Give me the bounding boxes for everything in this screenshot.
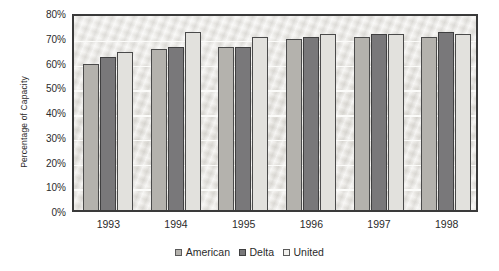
bar-group: [354, 16, 404, 210]
legend-label: United: [294, 246, 324, 258]
y-axis-title: Percentage of Capacity: [19, 42, 29, 202]
legend-swatch-icon: [175, 249, 182, 256]
bar[interactable]: [83, 64, 99, 210]
y-axis-tick-label: 50%: [30, 83, 66, 94]
chart-legend: AmericanDeltaUnited: [0, 246, 499, 258]
bar-chart: Percentage of Capacity 80%70%60%50%40%30…: [0, 0, 499, 271]
y-axis-tick-label: 10%: [30, 182, 66, 193]
bar[interactable]: [252, 37, 268, 210]
y-axis-tick-label: 70%: [30, 33, 66, 44]
legend-entry[interactable]: United: [283, 246, 324, 258]
bars-layer: [74, 16, 476, 210]
plot-area: [72, 14, 478, 212]
bar[interactable]: [354, 37, 370, 210]
bar[interactable]: [168, 47, 184, 210]
bar[interactable]: [218, 47, 234, 210]
y-axis-tick-labels: 80%70%60%50%40%30%20%10%0%: [30, 14, 66, 218]
bar[interactable]: [151, 49, 167, 210]
bar[interactable]: [371, 34, 387, 210]
bar[interactable]: [286, 39, 302, 210]
legend-entry[interactable]: American: [175, 246, 230, 258]
bar-group: [218, 16, 268, 210]
bar[interactable]: [185, 32, 201, 210]
bar[interactable]: [117, 52, 133, 210]
x-axis-tick-label: 1994: [164, 218, 187, 230]
bar-group: [286, 16, 336, 210]
bar-group: [151, 16, 201, 210]
bar[interactable]: [438, 32, 454, 210]
bar[interactable]: [235, 47, 251, 210]
x-axis-tick-label: 1998: [435, 218, 458, 230]
x-axis-tick-label: 1993: [97, 218, 120, 230]
bar[interactable]: [455, 34, 471, 210]
legend-label: Delta: [249, 246, 274, 258]
legend-entry[interactable]: Delta: [239, 246, 274, 258]
bar-group: [421, 16, 471, 210]
y-axis-tick-label: 30%: [30, 132, 66, 143]
x-axis-tick-label: 1996: [300, 218, 323, 230]
legend-swatch-icon: [239, 249, 246, 256]
x-axis-tick-labels: 199319941995199619971998: [72, 218, 478, 234]
bar[interactable]: [421, 37, 437, 210]
x-axis-tick-label: 1997: [367, 218, 390, 230]
legend-swatch-icon: [283, 249, 290, 256]
legend-label: American: [186, 246, 230, 258]
bar-group: [83, 16, 133, 210]
y-axis-tick-label: 40%: [30, 108, 66, 119]
x-axis-tick-label: 1995: [232, 218, 255, 230]
y-axis-tick-label: 20%: [30, 157, 66, 168]
bar[interactable]: [320, 34, 336, 210]
bar[interactable]: [303, 37, 319, 210]
bar[interactable]: [100, 57, 116, 210]
bar[interactable]: [388, 34, 404, 210]
y-axis-tick-label: 60%: [30, 58, 66, 69]
y-axis-tick-label: 0%: [30, 207, 66, 218]
y-axis-tick-label: 80%: [30, 9, 66, 20]
